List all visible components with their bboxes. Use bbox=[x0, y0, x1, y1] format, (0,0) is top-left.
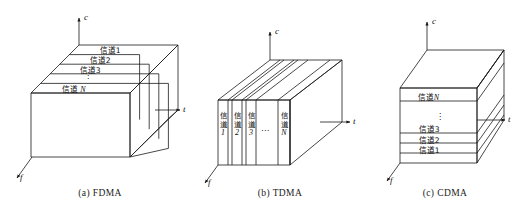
fdma-channel-ellipsis: ⋮ bbox=[84, 71, 93, 80]
cdma-channel-label-3: 信道3 bbox=[419, 123, 440, 134]
axis-label-f-cdma: f bbox=[390, 175, 393, 185]
tdma-top-face bbox=[218, 60, 342, 100]
caption-fdma: (a) FDMA bbox=[55, 188, 145, 198]
tdma-right-face bbox=[290, 60, 342, 165]
axis-label-f-fdma: f bbox=[20, 172, 23, 182]
cdma-channel-label-n: 信道N bbox=[418, 91, 439, 102]
cdma-top-face bbox=[400, 50, 504, 88]
fdma-front-face bbox=[31, 93, 130, 157]
axis-label-t-cdma: t bbox=[508, 114, 511, 124]
cdma-channel-ellipsis: ⋮ bbox=[436, 112, 445, 121]
panel-tdma bbox=[205, 32, 350, 183]
fdma-channel-label-n: 信道 N bbox=[62, 83, 85, 94]
fdma-right-face bbox=[130, 45, 178, 157]
axis-label-f-tdma: f bbox=[208, 177, 211, 187]
tdma-top-divider-3 bbox=[256, 60, 308, 100]
axis-f-tdma bbox=[205, 165, 218, 183]
axis-label-c-cdma: c bbox=[432, 16, 436, 26]
axis-label-c-tdma: c bbox=[275, 26, 279, 36]
tdma-channel-label-n: 信道N bbox=[279, 112, 289, 138]
axis-f-cdma bbox=[387, 163, 400, 181]
panel-fdma bbox=[17, 18, 180, 178]
tdma-channel-label-2: 信道2 bbox=[232, 112, 242, 138]
tdma-top-divider-1b bbox=[232, 60, 284, 100]
axis-label-t-tdma: t bbox=[353, 116, 356, 126]
tdma-channel-label-3: 信道3 bbox=[246, 112, 256, 138]
multiple-access-diagram bbox=[0, 0, 532, 213]
cdma-side-divider-2 bbox=[477, 105, 504, 143]
fdma-bottom-recede bbox=[130, 148, 168, 157]
panel-cdma bbox=[387, 22, 505, 181]
cdma-side-divider-1 bbox=[477, 115, 504, 153]
axis-label-c-fdma: c bbox=[84, 12, 88, 22]
tdma-channel-label-1: 信道1 bbox=[218, 112, 228, 138]
cdma-channel-label-1: 信道1 bbox=[419, 144, 440, 155]
cdma-right-face bbox=[477, 50, 504, 163]
caption-tdma: (b) TDMA bbox=[235, 188, 325, 198]
cdma-side-divider-3 bbox=[477, 95, 504, 133]
tdma-channel-ellipsis: ⋯ bbox=[261, 126, 270, 135]
axis-label-t-fdma: t bbox=[183, 104, 186, 114]
caption-cdma: (c) CDMA bbox=[400, 188, 490, 198]
